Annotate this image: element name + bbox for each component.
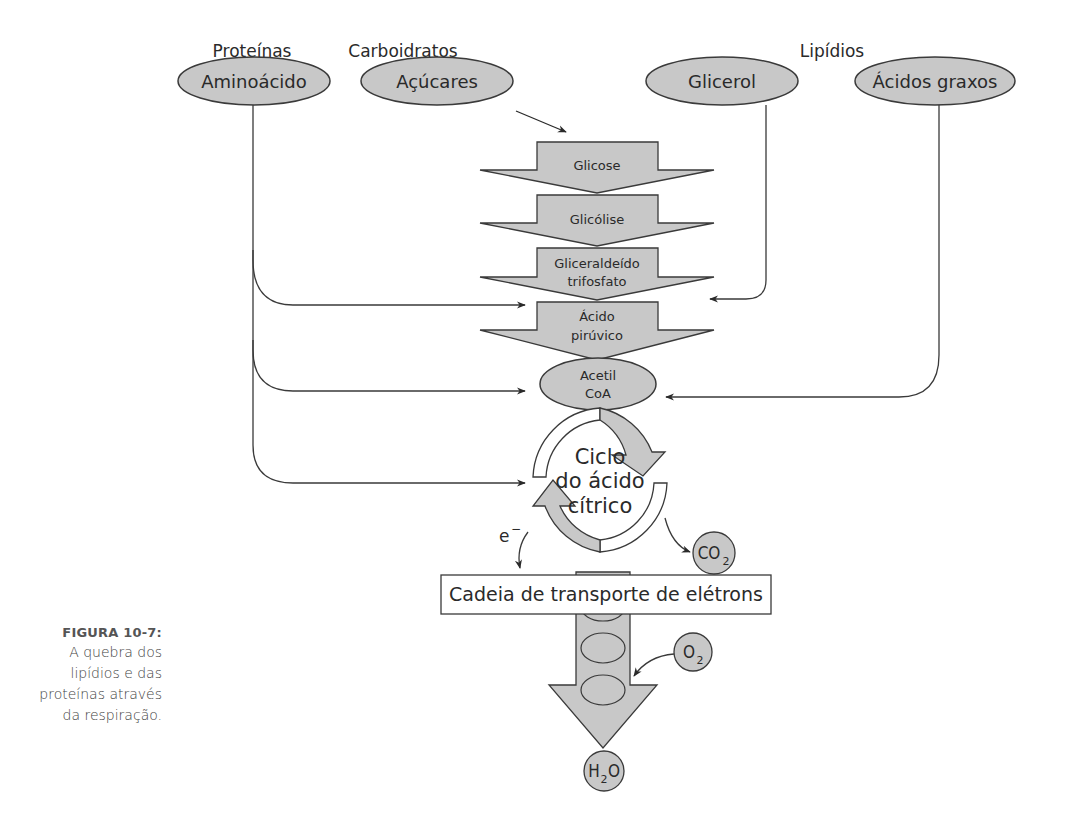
electron-label: e − [499, 522, 521, 546]
svg-text:e: e [499, 526, 509, 546]
arrow-electrons [519, 532, 528, 568]
molecule-o2: O 2 [674, 633, 712, 671]
svg-text:H: H [588, 761, 600, 781]
pathway-step-glycolysis: Glicólise [480, 195, 714, 246]
pathway-step-glucose: Glicose [480, 142, 714, 193]
node-acetyl-coa: Acetil CoA [540, 358, 656, 410]
node-amino-acid: Aminoácido [178, 57, 330, 105]
svg-text:2: 2 [723, 555, 730, 568]
svg-text:Glicose: Glicose [573, 158, 620, 173]
svg-text:Gliceraldeído: Gliceraldeído [554, 256, 639, 271]
figure-label: FIGURA 10-7: [20, 625, 162, 640]
svg-text:−: − [511, 522, 521, 536]
svg-text:CO: CO [698, 543, 721, 563]
svg-text:Ciclo: Ciclo [575, 445, 626, 469]
arrow-from-o2 [634, 654, 674, 676]
arrow-sugars-to-glucose [516, 111, 566, 132]
etc-label-box: Cadeia de transporte de elétrons [441, 575, 771, 614]
svg-text:Glicólise: Glicólise [570, 212, 624, 227]
svg-text:cítrico: cítrico [568, 494, 632, 518]
svg-text:Glicerol: Glicerol [688, 71, 756, 92]
molecule-h2o: H 2 O [584, 751, 624, 791]
connector-glycerol [710, 105, 766, 299]
svg-text:Ácidos graxos: Ácidos graxos [873, 71, 998, 92]
svg-text:Açúcares: Açúcares [396, 71, 478, 92]
figure-caption: FIGURA 10-7: A quebra dos lipídios e das… [20, 625, 162, 726]
svg-text:trifosfato: trifosfato [568, 274, 627, 289]
svg-text:O: O [683, 642, 695, 662]
svg-text:O: O [608, 761, 620, 781]
pathway-step-glyceraldehyde: Gliceraldeído trifosfato [480, 248, 714, 300]
svg-text:pirúvico: pirúvico [571, 328, 623, 343]
svg-text:Cadeia de transporte de elétro: Cadeia de transporte de elétrons [449, 583, 763, 605]
figure-caption-text: A quebra dos lipídios e das proteínas at… [20, 642, 162, 726]
connector-amino-acid [253, 105, 525, 483]
node-sugars: Açúcares [361, 57, 513, 105]
category-lipids: Lipídios [800, 41, 865, 61]
molecule-co2: CO 2 [693, 532, 735, 574]
svg-text:2: 2 [601, 773, 608, 786]
svg-text:Ácido: Ácido [579, 309, 615, 324]
krebs-cycle: Ciclo do ácido cítrico [533, 408, 667, 552]
svg-text:Aminoácido: Aminoácido [201, 71, 307, 92]
svg-text:do ácido: do ácido [555, 469, 644, 493]
pathway-step-pyruvic-acid: Ácido pirúvico [480, 302, 714, 360]
arrow-to-co2 [665, 518, 690, 552]
connector-fatty-acids [666, 105, 939, 397]
node-fatty-acids: Ácidos graxos [855, 57, 1015, 105]
node-glycerol: Glicerol [646, 57, 798, 105]
svg-text:CoA: CoA [585, 386, 611, 401]
svg-text:Acetil: Acetil [580, 368, 616, 383]
svg-text:2: 2 [697, 654, 704, 667]
